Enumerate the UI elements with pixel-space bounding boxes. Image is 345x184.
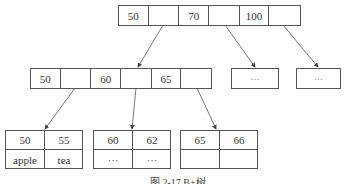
leaf-node-2: 60 62 ··· ···: [93, 130, 171, 169]
leaf-key-cell: 62: [133, 131, 171, 150]
internal-node: 50 60 65: [30, 68, 212, 89]
leaf-key-cell: 50: [6, 131, 45, 150]
internal-key-cell: 50: [31, 69, 61, 88]
root-pointer-cell: [209, 6, 240, 25]
root-key-cell: 70: [179, 6, 209, 25]
placeholder-node-1: ···: [231, 68, 279, 89]
edge-root-to-internal: [138, 25, 163, 67]
edge-internal-to-leaf-2: [132, 88, 136, 129]
ellipsis-label: ···: [232, 69, 278, 88]
root-pointer-cell: [149, 6, 180, 25]
internal-pointer-cell: [61, 69, 92, 88]
leaf-value-cell: ···: [133, 150, 171, 169]
leaf-key-cell: 55: [45, 131, 83, 150]
root-pointer-cell: [269, 6, 300, 25]
leaf-key-cell: 66: [220, 131, 258, 150]
root-key-cell: 50: [119, 6, 149, 25]
edge-internal-to-leaf-1: [45, 88, 75, 129]
internal-key-cell: 60: [91, 69, 121, 88]
leaf-key-cell: 65: [181, 131, 220, 150]
internal-pointer-cell: [121, 69, 152, 88]
leaf-node-1: 50 55 apple tea: [5, 130, 83, 169]
leaf-value-cell: apple: [6, 150, 45, 169]
ellipsis-label: ···: [297, 69, 340, 88]
root-node: 50 70 100: [118, 5, 301, 26]
edge-internal-to-leaf-3: [197, 88, 216, 129]
placeholder-node-2: ···: [296, 68, 341, 89]
internal-key-cell: 65: [152, 69, 182, 88]
leaf-value-cell: [220, 150, 258, 169]
edge-root-to-placeholder-2: [283, 25, 318, 67]
edge-root-to-placeholder-1: [225, 25, 255, 67]
leaf-value-cell: ···: [94, 150, 133, 169]
leaf-node-3: 65 66: [180, 130, 258, 169]
leaf-value-cell: [181, 150, 220, 169]
internal-pointer-cell: [181, 69, 211, 88]
leaf-key-cell: 60: [94, 131, 133, 150]
root-key-cell: 100: [240, 6, 270, 25]
figure-caption: 图 2-17 B+树: [150, 174, 206, 184]
leaf-value-cell: tea: [45, 150, 83, 169]
